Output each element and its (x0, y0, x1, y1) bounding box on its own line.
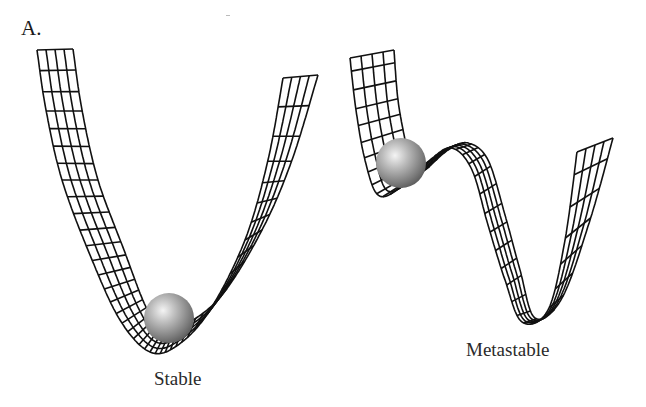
stable-ball (144, 293, 194, 343)
metastable-well-mesh (350, 50, 613, 324)
caption-metastable: Metastable (466, 339, 549, 361)
caption-stable: Stable (154, 368, 202, 390)
metastable-ball (376, 138, 426, 188)
